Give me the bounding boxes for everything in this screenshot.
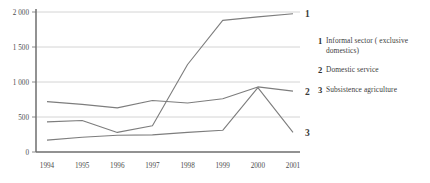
- x-tick-labels: 19941995199619971998199920002001: [40, 162, 301, 170]
- legend-item-subsistence-agriculture: 3 Subsistence agriculture: [318, 85, 428, 96]
- y-tick-label: 2 000: [13, 9, 30, 17]
- x-tick-label: 1997: [145, 162, 160, 170]
- series-end-label-3: 3: [305, 128, 310, 138]
- series-line-informal-sector: [47, 14, 293, 133]
- series-end-label-1: 1: [305, 9, 310, 19]
- x-tick-label: 1998: [180, 162, 195, 170]
- legend-item-domestic-service: 2 Domestic service: [318, 65, 428, 76]
- y-tick-label: 1 500: [13, 44, 30, 52]
- x-tick-label: 1999: [216, 162, 231, 170]
- legend-item-informal-sector: 1 Informal sector ( exclusive domestics): [318, 36, 428, 56]
- y-tick-label: 1 000: [13, 79, 30, 87]
- legend-label-informal-sector: Informal sector ( exclusive domestics): [326, 36, 428, 56]
- x-tick-label: 1996: [110, 162, 125, 170]
- x-tick-label: 1995: [75, 162, 90, 170]
- legend-marker-2: 2: [318, 65, 326, 76]
- legend-label-domestic-service: Domestic service: [326, 65, 379, 75]
- chart-page: 2 000 1 500 1 000 500 0 1994199519961997…: [0, 0, 430, 183]
- chart-axes: [36, 9, 300, 152]
- series-lines: [47, 14, 293, 140]
- legend-marker-3: 3: [318, 85, 326, 96]
- x-tick-label: 2001: [286, 162, 301, 170]
- y-tick-label: 0: [25, 149, 29, 157]
- legend-marker-1: 1: [318, 36, 326, 47]
- series-end-label-2: 2: [305, 87, 310, 97]
- legend-label-subsistence-agriculture: Subsistence agriculture: [326, 85, 397, 95]
- chart-plot-area: 2 000 1 500 1 000 500 0 1994199519961997…: [0, 0, 315, 183]
- y-tick-label: 500: [18, 114, 29, 122]
- x-tick-label: 2000: [251, 162, 266, 170]
- y-tick-labels: 2 000 1 500 1 000 500 0: [13, 9, 30, 157]
- chart-legend: 1 Informal sector ( exclusive domestics)…: [318, 36, 428, 105]
- x-tick-label: 1994: [40, 162, 55, 170]
- series-end-labels: 1 2 3: [305, 9, 310, 138]
- line-chart-svg: 2 000 1 500 1 000 500 0 1994199519961997…: [0, 0, 315, 183]
